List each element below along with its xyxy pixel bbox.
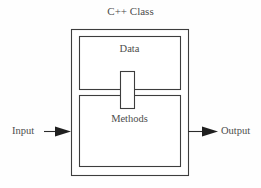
data-block-label: Data [79,44,180,55]
diagram-title: C++ Class [0,6,261,17]
input-arrow-icon [44,127,71,137]
output-label: Output [221,126,250,137]
diagram-canvas: C++ Class Data Methods Input Output [0,0,261,188]
input-label: Input [12,126,34,137]
output-arrow-icon [188,127,218,137]
methods-block-label: Methods [79,114,180,125]
data-methods-connector [121,72,135,109]
diagram-graphics [0,0,261,188]
